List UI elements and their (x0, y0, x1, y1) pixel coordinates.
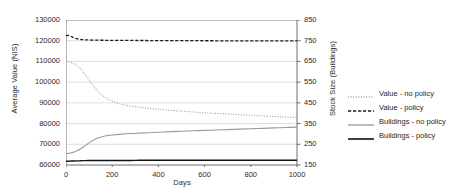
series-line-3 (66, 160, 297, 161)
legend-label: Value - policy (379, 103, 423, 112)
plot-area (66, 20, 297, 165)
y-axis-left-tick-label: 120000 (14, 36, 60, 45)
y-axis-left-tick-label: 70000 (14, 139, 60, 148)
legend-item[interactable]: Value - policy (348, 100, 446, 114)
y-axis-right-tick-label: 850 (304, 15, 344, 24)
y-axis-left-tick-label: 60000 (14, 160, 60, 169)
chart-svg (66, 20, 307, 167)
legend-label: Buildings - no policy (379, 117, 446, 126)
legend-swatch-solid-icon (348, 116, 374, 126)
x-axis-tick-label: 200 (92, 170, 132, 179)
y-axis-right-tick-label: 450 (304, 98, 344, 107)
x-axis-tick-label: 0 (46, 170, 86, 179)
y-axis-right-tick-label: 550 (304, 77, 344, 86)
y-axis-left-tick-label: 100000 (14, 77, 60, 86)
x-axis-tick-label: 400 (138, 170, 178, 179)
x-axis-tick-label: 1000 (277, 170, 317, 179)
y-axis-right-tick-label: 650 (304, 56, 344, 65)
chart-container: Average Value (NIS) Stock Size (Building… (0, 0, 458, 195)
series-line-0 (66, 61, 297, 117)
x-axis-title: Days (66, 178, 298, 187)
legend-label: Value - no policy (379, 89, 434, 98)
legend-swatch-dashed-icon (348, 102, 374, 112)
y-axis-right-tick-label: 150 (304, 160, 344, 169)
y-axis-right-tick-label: 750 (304, 36, 344, 45)
y-axis-right-tick-label: 350 (304, 119, 344, 128)
legend-item[interactable]: Value - no policy (348, 86, 446, 100)
y-axis-left-tick-label: 90000 (14, 98, 60, 107)
legend-swatch-solid-icon (348, 130, 374, 140)
x-axis-tick-label: 600 (185, 170, 225, 179)
series-line-1 (66, 35, 297, 41)
y-axis-left-tick-label: 130000 (14, 15, 60, 24)
chart-legend: Value - no policyValue - policyBuildings… (348, 86, 446, 142)
x-axis-tick-label: 800 (231, 170, 271, 179)
y-axis-right-tick-label: 250 (304, 139, 344, 148)
legend-swatch-dotted-icon (348, 88, 374, 98)
y-axis-left-tick-label: 110000 (14, 56, 60, 65)
legend-item[interactable]: Buildings - no policy (348, 114, 446, 128)
legend-label: Buildings - policy (379, 131, 435, 140)
legend-item[interactable]: Buildings - policy (348, 128, 446, 142)
y-axis-left-tick-label: 80000 (14, 119, 60, 128)
series-line-2 (66, 127, 297, 154)
